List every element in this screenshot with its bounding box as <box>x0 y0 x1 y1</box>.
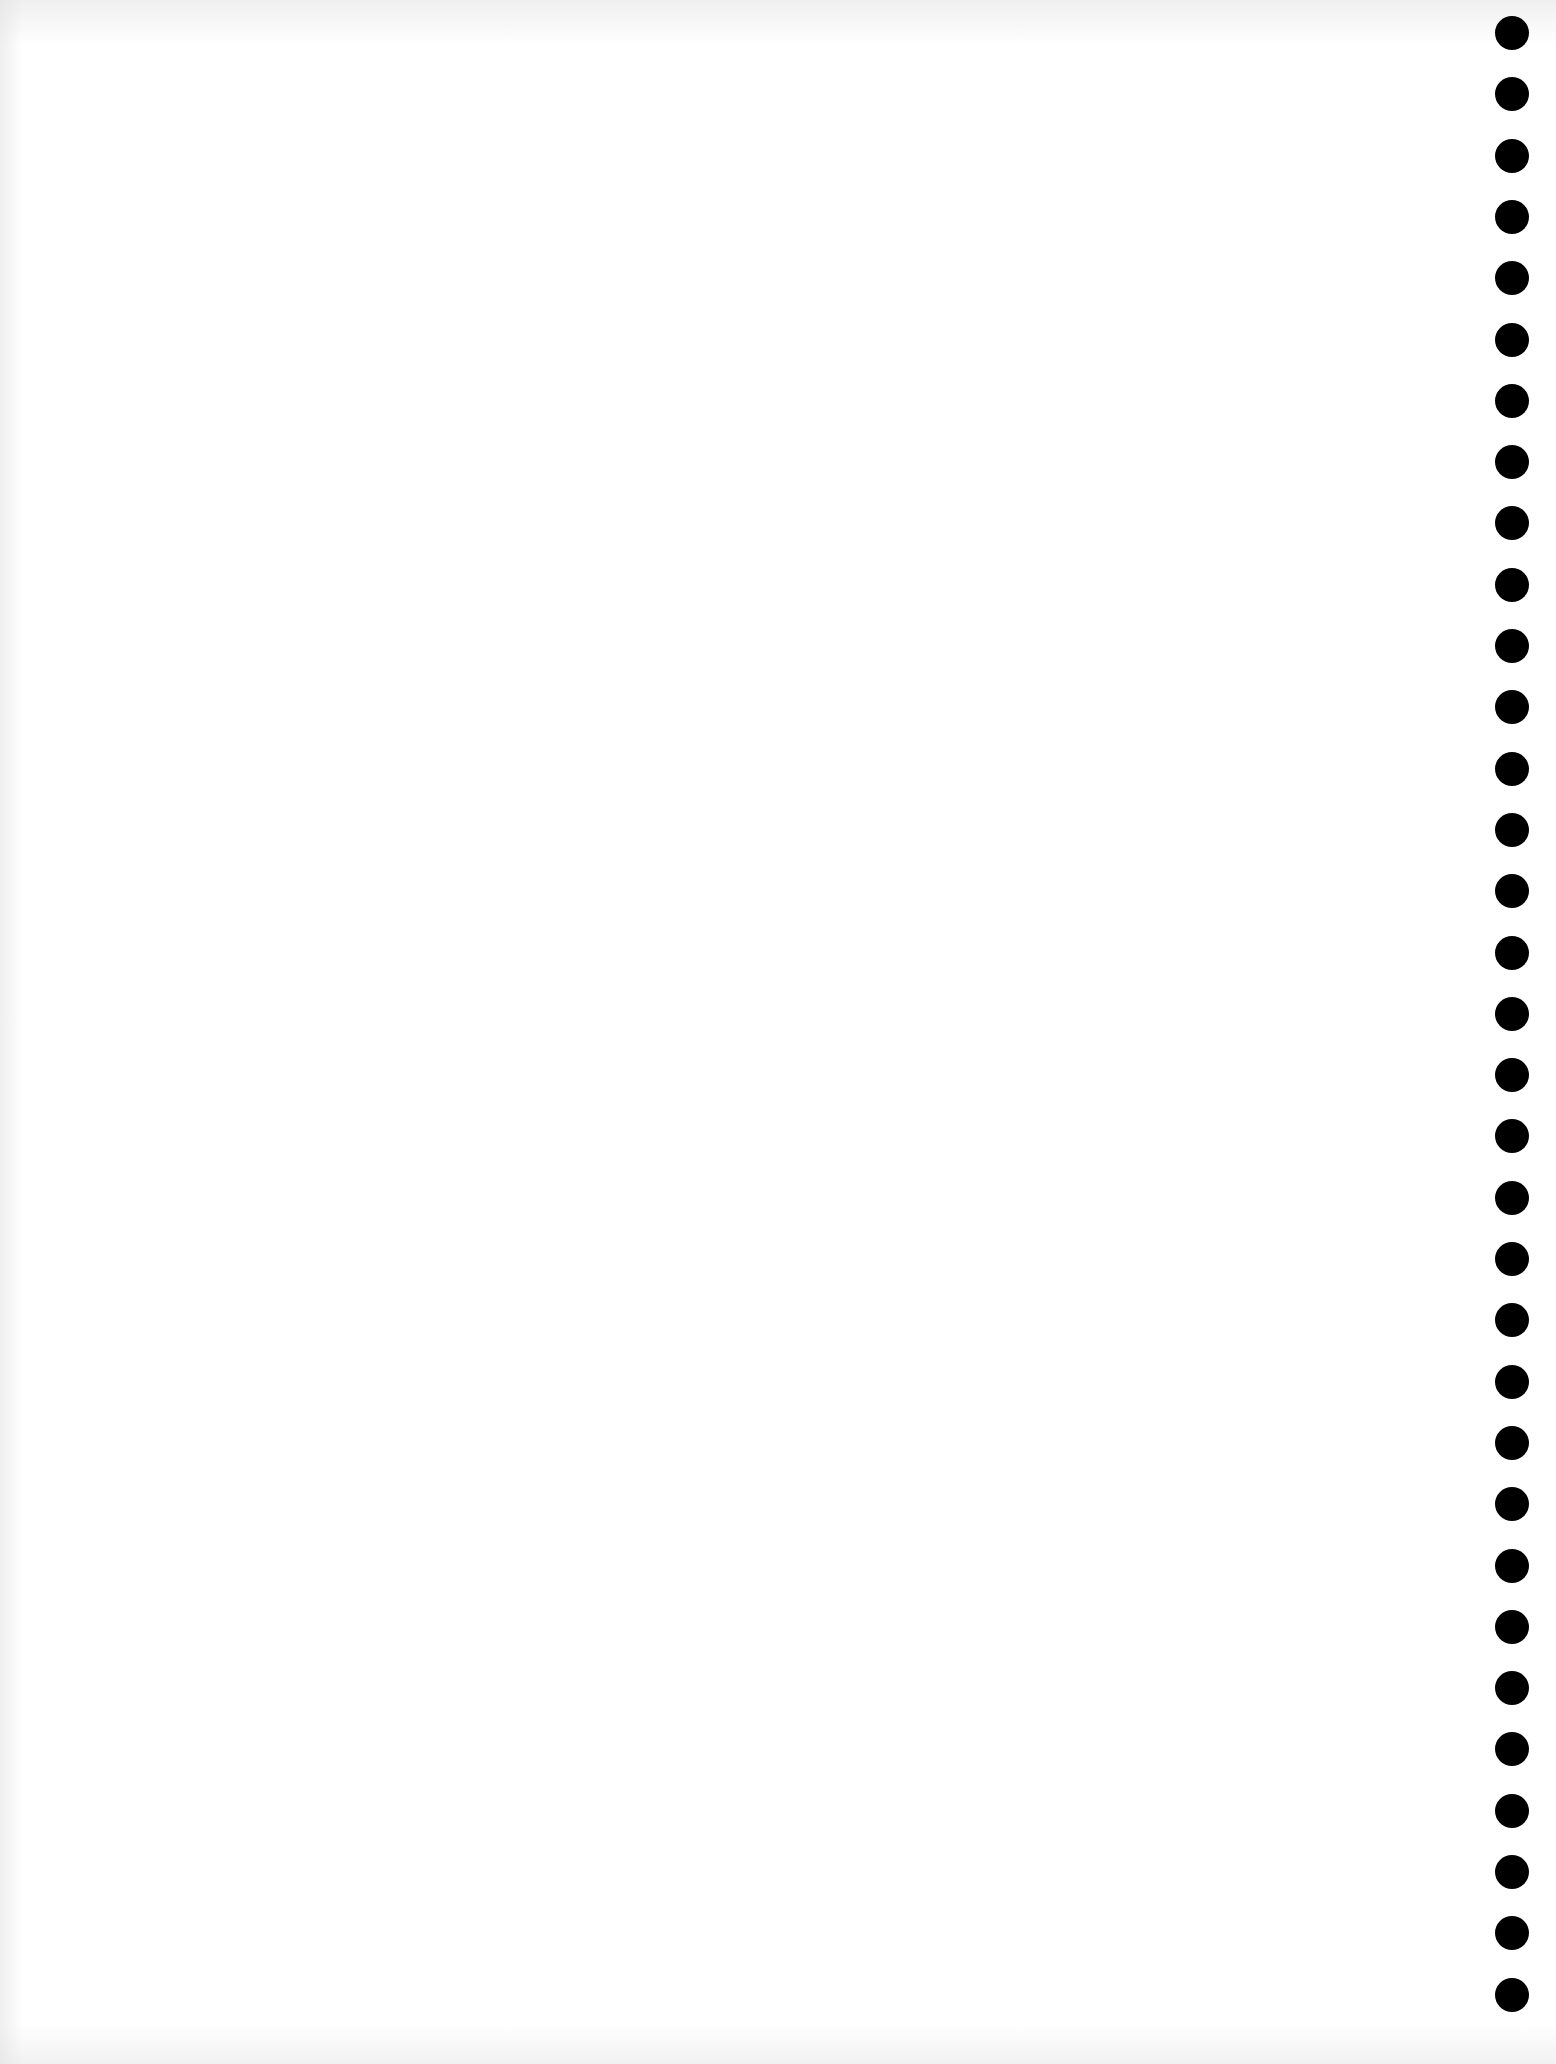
punch-hole <box>1495 1916 1529 1950</box>
punch-hole <box>1495 1794 1529 1828</box>
punch-hole <box>1495 629 1529 663</box>
punch-hole <box>1495 323 1529 357</box>
punch-hole <box>1495 568 1529 602</box>
punch-hole <box>1495 1549 1529 1583</box>
punch-hole <box>1495 1058 1529 1092</box>
punch-hole <box>1495 1365 1529 1399</box>
punch-hole <box>1495 874 1529 908</box>
punch-hole <box>1495 16 1529 50</box>
punch-hole <box>1495 997 1529 1031</box>
punch-hole <box>1495 1426 1529 1460</box>
punch-hole <box>1495 384 1529 418</box>
punch-hole <box>1495 261 1529 295</box>
punch-hole <box>1495 1732 1529 1766</box>
punch-hole <box>1495 445 1529 479</box>
punch-hole <box>1495 1978 1529 2012</box>
punch-hole <box>1495 1119 1529 1153</box>
blank-scanned-page <box>0 0 1556 2064</box>
punch-hole <box>1495 1487 1529 1521</box>
punch-hole <box>1495 506 1529 540</box>
punch-hole <box>1495 1303 1529 1337</box>
punch-hole <box>1495 200 1529 234</box>
punch-hole <box>1495 1855 1529 1889</box>
punch-hole <box>1495 1242 1529 1276</box>
punch-hole <box>1495 1181 1529 1215</box>
punch-hole <box>1495 139 1529 173</box>
punch-hole-strip <box>1490 0 1540 2064</box>
punch-hole <box>1495 813 1529 847</box>
punch-hole <box>1495 1671 1529 1705</box>
punch-hole <box>1495 1610 1529 1644</box>
punch-hole <box>1495 690 1529 724</box>
punch-hole <box>1495 752 1529 786</box>
punch-hole <box>1495 77 1529 111</box>
punch-hole <box>1495 936 1529 970</box>
